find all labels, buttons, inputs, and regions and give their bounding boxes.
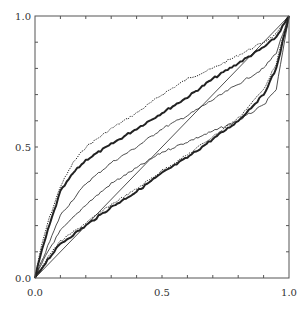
chart: 0.00.51.00.00.51.0 bbox=[0, 0, 308, 309]
series-layer bbox=[35, 16, 289, 278]
x-tick-label: 0.5 bbox=[154, 287, 170, 298]
x-tick-label: 1.0 bbox=[281, 287, 297, 298]
y-tick-label: 0.0 bbox=[15, 273, 31, 284]
y-tick-label: 1.0 bbox=[15, 11, 31, 22]
series-diagonal bbox=[35, 16, 289, 278]
x-tick-label: 0.0 bbox=[27, 287, 43, 298]
y-tick-label: 0.5 bbox=[15, 142, 31, 153]
